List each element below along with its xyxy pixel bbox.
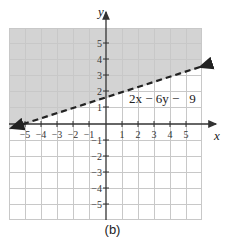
- equation-label: 2x − 6y − 9: [129, 91, 196, 106]
- x-tick-label: 1: [120, 129, 125, 140]
- y-tick-label: 5: [97, 38, 102, 49]
- x-tick-label: 2: [136, 129, 141, 140]
- y-tick-label: −1: [91, 135, 102, 146]
- x-tick-label: −4: [36, 129, 47, 140]
- y-tick-label: 4: [97, 54, 102, 65]
- x-axis-label: x: [213, 128, 220, 143]
- x-tick-label: −2: [68, 129, 79, 140]
- x-tick-label: −5: [20, 129, 31, 140]
- coordinate-plane: −5 −4 −3 −2 −1 1 2 3 4 5 5 4 3 2 1 −1 −2…: [0, 0, 225, 240]
- x-tick-label: 4: [168, 129, 173, 140]
- y-tick-label: −3: [91, 167, 102, 178]
- x-tick-label: 3: [152, 129, 157, 140]
- figure-caption: (b): [0, 222, 225, 237]
- y-tick-label: −2: [91, 151, 102, 162]
- y-axis-label: y: [96, 4, 104, 19]
- y-tick-label: −4: [91, 183, 102, 194]
- y-tick-label: 1: [97, 102, 102, 113]
- y-tick-label: 2: [97, 86, 102, 97]
- x-tick-label: 5: [184, 129, 189, 140]
- y-tick-label: −5: [91, 199, 102, 210]
- y-tick-label: 3: [97, 70, 102, 81]
- x-tick-label: −3: [52, 129, 63, 140]
